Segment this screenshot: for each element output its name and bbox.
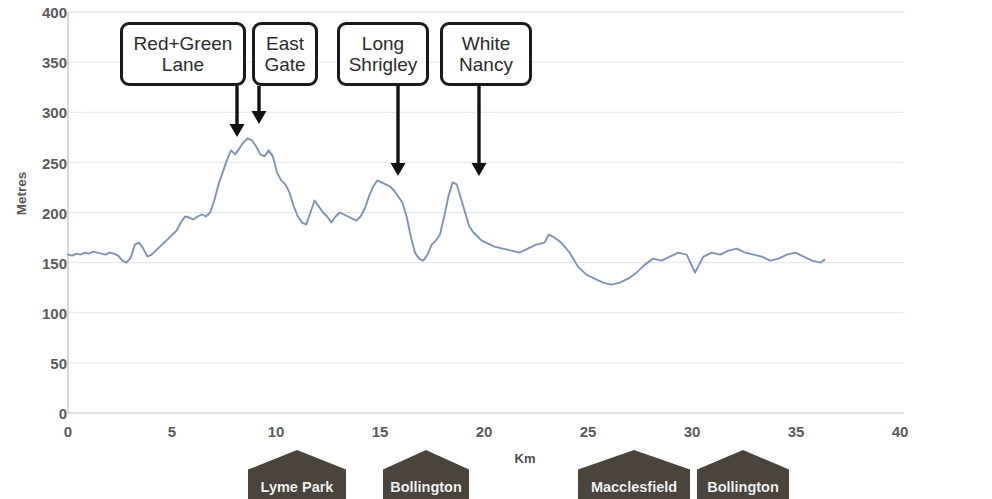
elevation-profile-chart: Metres 400 350 300 250 200 150 100 50 0 … bbox=[0, 0, 992, 499]
callout-label: Long Shrigley bbox=[349, 33, 418, 76]
callout-label: East Gate bbox=[264, 33, 305, 76]
place-marker-label: Bollington bbox=[707, 479, 779, 495]
callout-long-shrigley[interactable]: Long Shrigley bbox=[337, 22, 429, 86]
callout-east-gate[interactable]: East Gate bbox=[252, 22, 318, 86]
place-marker-label: Lyme Park bbox=[261, 479, 334, 495]
place-marker-label: Bollington bbox=[390, 479, 462, 495]
callout-label: Red+Green Lane bbox=[134, 33, 233, 76]
callout-red-green-lane[interactable]: Red+Green Lane bbox=[120, 22, 246, 86]
place-marker-label: Macclesfield bbox=[591, 479, 677, 495]
callout-label: White Nancy bbox=[459, 33, 513, 76]
callout-white-nancy[interactable]: White Nancy bbox=[440, 22, 532, 86]
